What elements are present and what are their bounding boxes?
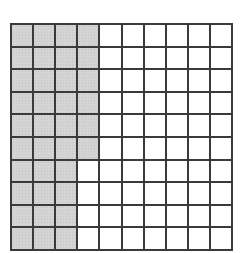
unshaded-cell: [189, 70, 209, 91]
unshaded-cell: [145, 161, 165, 182]
unshaded-cell: [100, 115, 120, 136]
shaded-cell: [34, 228, 54, 249]
unshaded-cell: [189, 228, 209, 249]
unshaded-cell: [123, 138, 143, 159]
unshaded-cell: [211, 48, 231, 69]
shaded-cell: [12, 48, 32, 69]
unshaded-cell: [167, 115, 187, 136]
unshaded-cell: [189, 206, 209, 227]
unshaded-cell: [100, 48, 120, 69]
unshaded-cell: [189, 93, 209, 114]
unshaded-cell: [123, 70, 143, 91]
shaded-cell: [34, 25, 54, 46]
shaded-cell: [56, 138, 76, 159]
unshaded-cell: [145, 70, 165, 91]
unshaded-cell: [211, 115, 231, 136]
unshaded-cell: [211, 25, 231, 46]
shaded-cell: [78, 48, 98, 69]
unshaded-cell: [100, 183, 120, 204]
unshaded-cell: [167, 206, 187, 227]
shaded-cell: [12, 138, 32, 159]
unshaded-cell: [167, 183, 187, 204]
unshaded-cell: [211, 228, 231, 249]
shaded-cell: [56, 48, 76, 69]
unshaded-cell: [100, 138, 120, 159]
shaded-cell: [12, 70, 32, 91]
shaded-cell: [12, 93, 32, 114]
unshaded-cell: [145, 206, 165, 227]
unshaded-cell: [123, 93, 143, 114]
unshaded-cell: [123, 228, 143, 249]
shaded-cell: [12, 161, 32, 182]
shaded-cell: [34, 138, 54, 159]
shaded-cell: [78, 115, 98, 136]
unshaded-cell: [211, 183, 231, 204]
unshaded-cell: [123, 206, 143, 227]
unshaded-cell: [78, 228, 98, 249]
hundred-grid: [10, 23, 233, 251]
unshaded-cell: [100, 228, 120, 249]
unshaded-cell: [145, 48, 165, 69]
unshaded-cell: [189, 138, 209, 159]
shaded-cell: [78, 70, 98, 91]
unshaded-cell: [211, 70, 231, 91]
unshaded-cell: [100, 206, 120, 227]
unshaded-cell: [189, 183, 209, 204]
unshaded-cell: [78, 206, 98, 227]
shaded-cell: [56, 206, 76, 227]
unshaded-cell: [100, 70, 120, 91]
unshaded-cell: [167, 161, 187, 182]
shaded-cell: [34, 206, 54, 227]
shaded-cell: [78, 93, 98, 114]
unshaded-cell: [145, 228, 165, 249]
shaded-cell: [34, 70, 54, 91]
shaded-cell: [12, 115, 32, 136]
shaded-cell: [56, 183, 76, 204]
unshaded-cell: [100, 25, 120, 46]
shaded-cell: [34, 48, 54, 69]
shaded-cell: [56, 115, 76, 136]
unshaded-cell: [211, 161, 231, 182]
unshaded-cell: [78, 161, 98, 182]
unshaded-cell: [145, 183, 165, 204]
unshaded-cell: [123, 161, 143, 182]
shaded-cell: [56, 70, 76, 91]
unshaded-cell: [100, 161, 120, 182]
shaded-cell: [78, 138, 98, 159]
unshaded-cell: [211, 138, 231, 159]
unshaded-cell: [123, 183, 143, 204]
unshaded-cell: [123, 115, 143, 136]
shaded-cell: [34, 183, 54, 204]
shaded-cell: [56, 25, 76, 46]
unshaded-cell: [167, 48, 187, 69]
unshaded-cell: [167, 93, 187, 114]
unshaded-cell: [123, 48, 143, 69]
unshaded-cell: [145, 25, 165, 46]
unshaded-cell: [167, 138, 187, 159]
unshaded-cell: [167, 25, 187, 46]
unshaded-cell: [167, 228, 187, 249]
unshaded-cell: [145, 115, 165, 136]
shaded-cell: [12, 206, 32, 227]
shaded-cell: [34, 115, 54, 136]
unshaded-cell: [123, 25, 143, 46]
shaded-cell: [78, 25, 98, 46]
unshaded-cell: [189, 161, 209, 182]
unshaded-cell: [189, 115, 209, 136]
shaded-cell: [56, 93, 76, 114]
shaded-cell: [12, 228, 32, 249]
unshaded-cell: [145, 93, 165, 114]
shaded-cell: [12, 183, 32, 204]
shaded-cell: [56, 161, 76, 182]
shaded-cell: [12, 25, 32, 46]
unshaded-cell: [211, 93, 231, 114]
unshaded-cell: [167, 70, 187, 91]
unshaded-cell: [189, 25, 209, 46]
shaded-cell: [56, 228, 76, 249]
unshaded-cell: [78, 183, 98, 204]
shaded-cell: [34, 93, 54, 114]
unshaded-cell: [100, 93, 120, 114]
shaded-cell: [34, 161, 54, 182]
unshaded-cell: [145, 138, 165, 159]
unshaded-cell: [189, 48, 209, 69]
